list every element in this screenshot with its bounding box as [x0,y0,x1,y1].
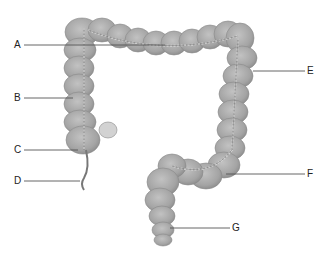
label-f: F [307,169,313,179]
ileum-end [82,150,88,190]
cecal-bulge [99,122,117,138]
label-e: E [307,66,314,76]
colon-body [64,18,257,246]
colon-diagram [0,0,329,261]
label-d: D [14,176,21,186]
rectum [145,168,179,246]
transverse-colon [88,18,254,55]
label-g: G [232,223,240,233]
label-c: C [14,145,21,155]
descending-colon [208,46,257,178]
label-b: B [14,93,21,103]
label-a: A [14,40,21,50]
